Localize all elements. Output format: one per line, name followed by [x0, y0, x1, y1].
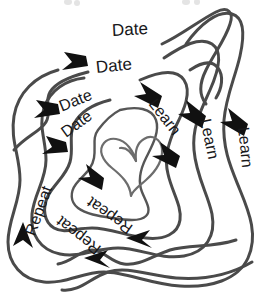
- spiral-diagram: Date Date Date Date Learn Learn Learn Re…: [0, 0, 268, 304]
- label-learn-3: Learn: [235, 126, 255, 168]
- label-date-2: Date: [95, 55, 133, 76]
- arrowhead-date-1: [62, 52, 88, 70]
- swirl-bottom-wave-2: [62, 262, 252, 290]
- arrowhead-date-2: [34, 100, 60, 118]
- diagram-canvas: [0, 0, 268, 304]
- clipped-text-fragments: [64, 0, 200, 6]
- label-date-1: Date: [112, 20, 149, 39]
